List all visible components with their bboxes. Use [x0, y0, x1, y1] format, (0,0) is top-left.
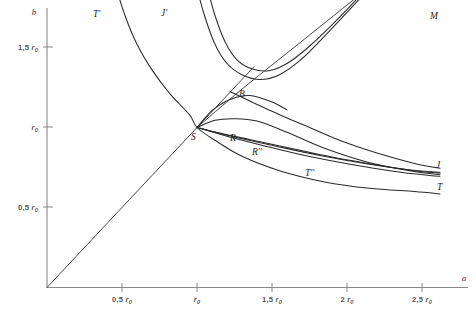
label-M: M [429, 11, 439, 21]
x-axis-label: a [462, 273, 467, 283]
x-tick-labels: 0,5 r0 r0 1,5 r0 2 r0 2,5 r0 [112, 295, 433, 305]
curves-group [47, 0, 440, 288]
curve-T-prime [114, 0, 440, 194]
x-tick-label-0-5r0: 0,5 r0 [112, 295, 133, 305]
figure-root: 0,5 r0 r0 1,5 r0 0,5 r0 r0 1,5 r0 2 r0 2… [0, 0, 476, 315]
chart-canvas: 0,5 r0 r0 1,5 r0 0,5 r0 r0 1,5 r0 2 r0 2… [0, 0, 476, 315]
x-tick-label-r0: r0 [194, 295, 201, 305]
label-R-double-prime: R'' [251, 147, 263, 157]
label-B: B [239, 89, 245, 99]
y-tick-labels: 0,5 r0 r0 1,5 r0 [18, 43, 39, 213]
x-tick-label-2r0: 2 r0 [340, 295, 354, 305]
curve-J-prime [195, 0, 377, 79]
label-J-prime: J' [161, 8, 168, 18]
y-tick-label-1-5r0: 1,5 r0 [18, 43, 39, 53]
y-tick-marks [43, 47, 53, 207]
y-axis-label: b [32, 7, 37, 17]
label-T-prime: T' [93, 9, 101, 19]
label-S: S [191, 132, 196, 142]
label-R: R [229, 133, 236, 143]
y-tick-label-r0: r0 [32, 123, 39, 133]
x-tick-label-1-5r0: 1,5 r0 [262, 295, 283, 305]
label-T: T [437, 182, 443, 192]
curve-M-line [197, 0, 380, 127]
y-tick-label-0-5r0: 0,5 r0 [18, 203, 39, 213]
label-T-double-prime: T'' [305, 168, 315, 178]
curve-diagonal-ray [47, 67, 254, 288]
curve-inner-U-branch [205, 0, 371, 71]
x-tick-label-2-5r0: 2,5 r0 [412, 295, 433, 305]
curve-R-curve [197, 119, 440, 175]
